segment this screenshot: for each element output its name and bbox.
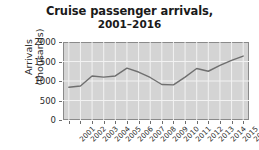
x-axis-tick-mark [115, 121, 116, 124]
x-axis-tick-mark [243, 121, 244, 124]
x-axis-tick-mark [80, 121, 81, 124]
x-axis-tick-mark [185, 121, 186, 124]
x-axis-tick-mark [197, 121, 198, 124]
x-axis-tick-mark [139, 121, 140, 124]
chart-container: Cruise passenger arrivals, 2001–2016 Arr… [0, 0, 259, 150]
x-axis-tick-mark [208, 121, 209, 124]
x-axis-tick-mark [162, 121, 163, 124]
x-axis-tick-mark [92, 121, 93, 124]
x-axis-tick-mark [232, 121, 233, 124]
x-axis-tick-mark [220, 121, 221, 124]
x-axis-ticks: 2001200220032004200520062007200820092010… [0, 0, 259, 150]
x-axis-tick-mark [173, 121, 174, 124]
x-axis-tick-mark [150, 121, 151, 124]
x-axis-tick-mark [104, 121, 105, 124]
x-axis-tick-mark [69, 121, 70, 124]
x-axis-tick-mark [127, 121, 128, 124]
